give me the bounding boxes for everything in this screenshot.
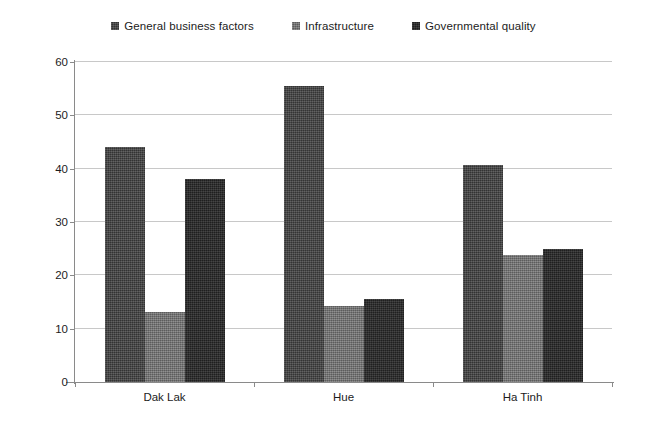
legend-label: Infrastructure xyxy=(305,20,374,32)
legend-entry[interactable]: Governmental quality xyxy=(412,20,536,32)
bar[interactable] xyxy=(543,249,583,382)
bar[interactable] xyxy=(503,255,543,382)
bar-group xyxy=(284,62,404,382)
legend-swatch-icon xyxy=(412,22,420,30)
y-axis-tick-marks xyxy=(0,62,80,382)
plot-area xyxy=(75,62,612,382)
bar[interactable] xyxy=(185,179,225,382)
y-axis-tick-mark xyxy=(70,222,75,223)
x-axis-line xyxy=(66,382,614,383)
bar-chart: General business factorsInfrastructureGo… xyxy=(0,0,647,423)
legend-entry[interactable]: General business factors xyxy=(111,20,254,32)
x-axis-category-label: Hue xyxy=(333,391,354,403)
x-axis-tick-mark xyxy=(254,382,255,387)
x-axis-category-label: Ha Tinh xyxy=(503,391,543,403)
bar-group xyxy=(105,62,225,382)
bar[interactable] xyxy=(324,306,364,382)
bar[interactable] xyxy=(364,299,404,382)
bar-group xyxy=(463,62,583,382)
legend-swatch-icon xyxy=(292,22,300,30)
y-axis-tick-mark xyxy=(70,62,75,63)
chart-legend: General business factorsInfrastructureGo… xyxy=(0,20,647,32)
x-axis-tick-mark xyxy=(75,382,76,387)
x-axis-tick-mark xyxy=(433,382,434,387)
y-axis-tick-mark xyxy=(70,169,75,170)
x-axis-tick-mark xyxy=(612,382,613,387)
y-axis-tick-mark xyxy=(70,275,75,276)
legend-label: General business factors xyxy=(124,20,254,32)
bar[interactable] xyxy=(105,147,145,382)
legend-swatch-icon xyxy=(111,22,119,30)
bar[interactable] xyxy=(463,165,503,382)
legend-label: Governmental quality xyxy=(425,20,536,32)
bar[interactable] xyxy=(145,312,185,382)
y-axis-tick-mark xyxy=(70,115,75,116)
y-axis-tick-mark xyxy=(70,329,75,330)
x-axis-tick-labels: Dak LakHueHa Tinh xyxy=(75,391,612,415)
bar[interactable] xyxy=(284,86,324,382)
legend-entry[interactable]: Infrastructure xyxy=(292,20,374,32)
x-axis-category-label: Dak Lak xyxy=(143,391,185,403)
